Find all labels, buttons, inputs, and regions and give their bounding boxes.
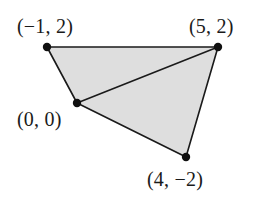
- vertex-label-left-middle: (0, 0): [17, 109, 62, 129]
- vertex-dot-top-right: [214, 43, 222, 51]
- vertex-label-bottom: (4, −2): [147, 169, 203, 189]
- vertex-dot-top-left: [43, 43, 51, 51]
- vertex-dot-bottom: [182, 153, 190, 161]
- vertex-dot-left-middle: [73, 99, 81, 107]
- vertex-label-top-right: (5, 2): [189, 16, 234, 36]
- vertex-label-top-left: (−1, 2): [17, 16, 73, 36]
